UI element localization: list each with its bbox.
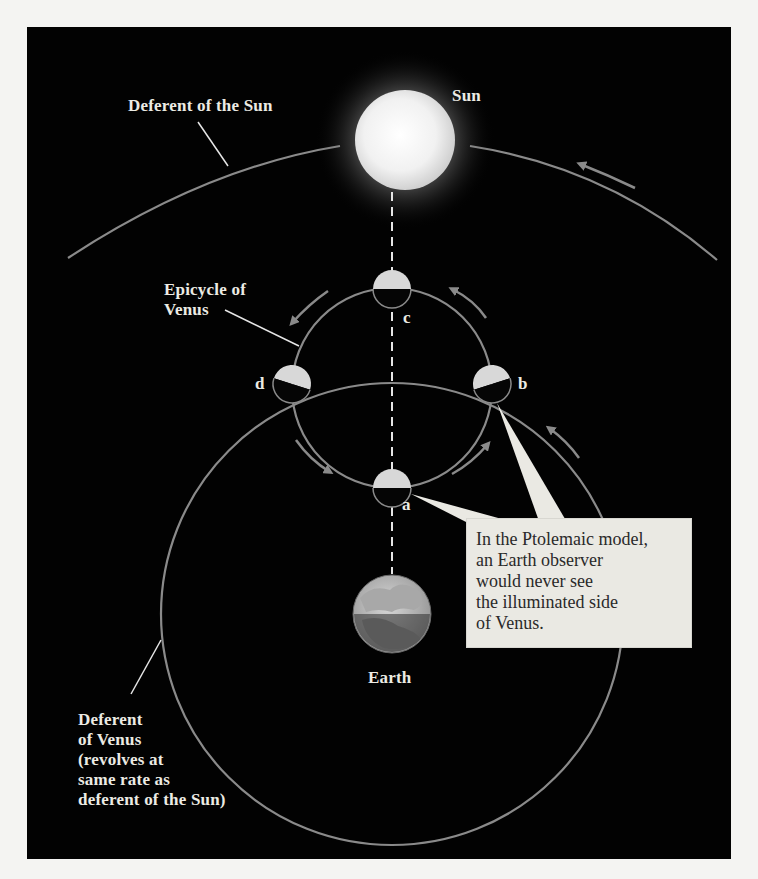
venus-phase-b-icon	[468, 360, 516, 408]
callout-box: In the Ptolemaic model, an Earth observe…	[466, 518, 692, 648]
venus-phase-c-icon	[373, 270, 411, 308]
leader-deferent-venus	[131, 640, 161, 694]
arrow-deferent-sun	[580, 164, 635, 188]
arrow-deferent-venus	[549, 428, 579, 458]
callout-pointer-b	[497, 403, 568, 524]
label-deferent-of-venus: Deferent of Venus (revolves at same rate…	[78, 710, 226, 810]
label-venus-a: a	[402, 496, 411, 514]
label-deferent-of-sun: Deferent of the Sun	[128, 96, 273, 116]
label-venus-b: b	[518, 375, 527, 393]
arrow-epicycle-lower-right	[452, 444, 488, 474]
label-venus-d: d	[255, 375, 264, 393]
arrow-epicycle-lower-left	[296, 440, 330, 472]
venus-phase-d-icon	[268, 360, 316, 408]
leader-deferent-sun	[198, 122, 228, 166]
label-epicycle-of-venus: Epicycle of Venus	[164, 280, 246, 320]
earth-icon	[350, 575, 440, 656]
arrow-epicycle-upper-right	[452, 289, 486, 318]
label-earth: Earth	[368, 668, 412, 688]
label-sun: Sun	[452, 86, 481, 106]
sun-icon	[355, 90, 455, 190]
label-venus-c: c	[403, 309, 411, 327]
arrow-epicycle-upper-left	[292, 291, 328, 323]
